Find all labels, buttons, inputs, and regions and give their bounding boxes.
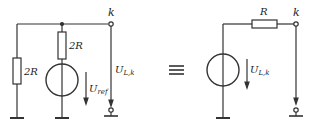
resistor-r [252,20,277,28]
source-ulk-arrowhead-icon [245,82,249,88]
output-arrowhead-right-icon [294,98,298,104]
terminal-k-top-right [294,22,298,26]
uref-arrowhead-icon [84,98,88,104]
ulk-arrowhead-icon [109,100,113,106]
terminal-k-label: k [108,6,115,19]
terminal-k-top [109,22,113,26]
equivalence-symbol-icon [169,66,184,74]
terminal-k-bottom-right [294,108,298,112]
ulk-left-sub: L,k [122,69,134,77]
resistor-middle-label: 2R [68,40,83,51]
resistor-left-label: 2R [23,66,38,77]
resistor-middle-2r [58,32,66,59]
ulk-label-left: UL,k [115,64,135,77]
terminal-k-label-right: k [293,6,300,19]
ulk-label-right: UL,k [250,64,270,77]
circuit-diagram: k 2R 2R Uref UL,k k R UL,k [0,0,314,129]
ulk-right-sub: L,k [257,69,269,77]
terminal-k-bottom [109,108,113,112]
uref-label: Uref [89,83,109,96]
uref-label-sub: ref [97,88,108,96]
resistor-left-2r [13,58,21,84]
resistor-r-label: R [259,6,268,17]
